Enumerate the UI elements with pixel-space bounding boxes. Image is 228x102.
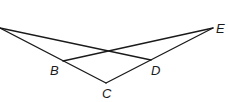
label-point-d: D [151,63,160,78]
label-point-b: B [50,63,59,78]
segment-a-d [0,28,151,60]
geometry-diagram: B D C E [0,0,228,102]
label-point-c: C [102,86,112,101]
label-point-e: E [216,21,225,36]
segment-b-e [63,28,213,61]
